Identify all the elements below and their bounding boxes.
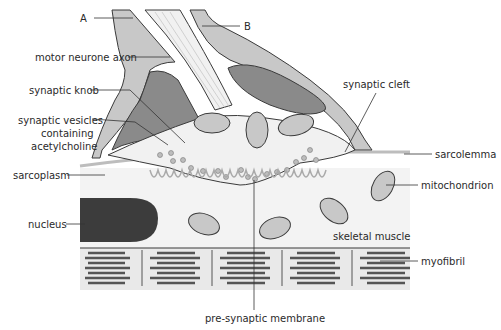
label-motor-neurone-axon: motor neurone axon [35,52,137,63]
label-myofibril: myofibril [421,256,465,267]
label-containing: containing [41,128,94,139]
label-synaptic-vesicles: synaptic vesicles [18,115,103,126]
label-sarcolemma: sarcolemma [435,149,496,160]
label-mitochondrion: mitochondrion [421,180,494,191]
neuromuscular-junction-diagram: A B motor neurone axon synaptic knob syn… [0,0,501,330]
myofibril-band [80,248,410,290]
label-sarcoplasm: sarcoplasm [13,170,70,181]
label-b: B [244,21,251,32]
label-acetylcholine: acetylcholine [31,141,97,152]
nucleus-shape [80,198,158,242]
label-skeletal-muscle: skeletal muscle [333,231,410,242]
label-a: A [80,13,87,24]
label-synaptic-cleft: synaptic cleft [343,79,410,90]
label-synaptic-knob: synaptic knob [29,85,99,96]
label-nucleus: nucleus [28,219,67,230]
label-pre-synaptic-membrane: pre-synaptic membrane [205,313,325,324]
